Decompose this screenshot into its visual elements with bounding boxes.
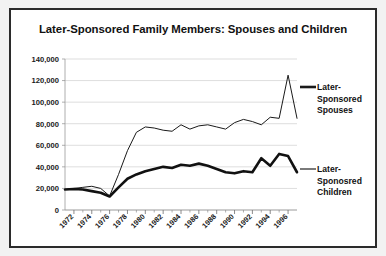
chart-border-frame: Later-Sponsored Family Members: Spouses … bbox=[9, 8, 377, 248]
data-series bbox=[65, 75, 297, 196]
y-tick-label: 40,000 bbox=[36, 163, 59, 172]
x-tick-label: 1976 bbox=[93, 212, 111, 230]
chart-figure: Later-Sponsored Family Members: Spouses … bbox=[0, 0, 386, 256]
y-tick-label: 20,000 bbox=[36, 184, 59, 193]
legend-label-1: Sponsored bbox=[317, 94, 362, 104]
legend-label-1: Later- bbox=[317, 82, 341, 92]
chart-canvas: Later-Sponsored Family Members: Spouses … bbox=[11, 10, 375, 246]
x-tick-label: 1986 bbox=[182, 212, 200, 230]
x-tick-label: 1988 bbox=[200, 212, 218, 230]
chart-plot-area: 020,00040,00060,00080,000100,000120,0001… bbox=[11, 10, 379, 250]
x-axis-ticks bbox=[74, 210, 288, 214]
x-tick-label: 1984 bbox=[164, 211, 183, 230]
y-axis-labels: 020,00040,00060,00080,000100,000120,0001… bbox=[32, 55, 59, 215]
chart-legend: Later-SponsoredSpousesLater-SponosredChi… bbox=[300, 82, 362, 197]
x-tick-label: 1994 bbox=[254, 211, 273, 230]
x-tick-label: 1974 bbox=[75, 211, 94, 230]
x-tick-label: 1990 bbox=[218, 212, 236, 230]
x-axis-labels: 1972197419761978198019821984198619881990… bbox=[57, 211, 289, 230]
x-tick-label: 1980 bbox=[129, 212, 147, 230]
legend-label-2: Later- bbox=[317, 164, 341, 174]
x-tick-label: 1978 bbox=[111, 212, 129, 230]
series-line-1 bbox=[65, 75, 297, 196]
y-tick-label: 0 bbox=[55, 206, 59, 215]
y-axis-ticks bbox=[62, 59, 65, 210]
x-tick-label: 1992 bbox=[236, 212, 254, 230]
legend-label-2: Children bbox=[317, 187, 352, 197]
y-tick-label: 120,000 bbox=[32, 76, 59, 85]
y-tick-label: 140,000 bbox=[32, 55, 59, 64]
y-tick-label: 100,000 bbox=[32, 98, 59, 107]
series-line-2 bbox=[65, 154, 297, 197]
x-tick-label: 1972 bbox=[57, 212, 75, 230]
gridlines bbox=[65, 59, 297, 210]
y-tick-label: 60,000 bbox=[36, 141, 59, 150]
legend-label-1: Spouses bbox=[317, 105, 353, 115]
y-tick-label: 80,000 bbox=[36, 120, 59, 129]
x-tick-label: 1996 bbox=[271, 212, 289, 230]
legend-label-2: Sponosred bbox=[317, 176, 362, 186]
x-tick-label: 1982 bbox=[147, 212, 165, 230]
